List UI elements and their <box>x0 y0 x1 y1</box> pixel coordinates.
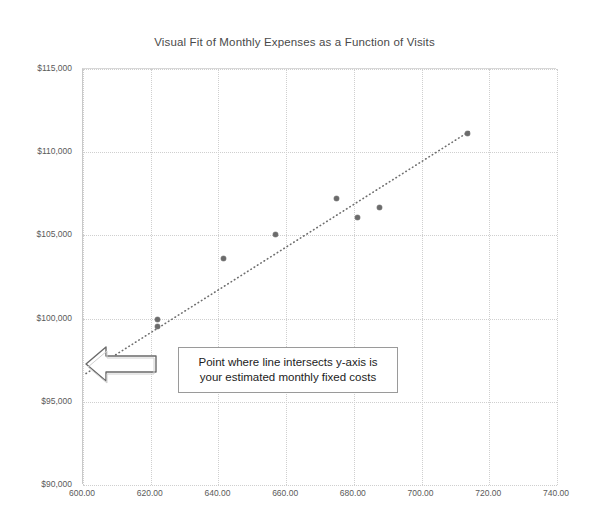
data-point <box>155 317 160 322</box>
gridline-vertical <box>557 69 558 485</box>
data-point <box>155 324 160 329</box>
data-point <box>273 232 278 237</box>
y-tick-label: $110,000 <box>0 146 72 156</box>
gridline-horizontal <box>83 485 557 486</box>
x-axis-tick-labels: 600.00620.00640.00660.00680.00700.00720.… <box>0 488 589 512</box>
x-tick-label: 700.00 <box>408 488 434 498</box>
data-point <box>465 131 470 136</box>
y-tick-label: $100,000 <box>0 313 72 323</box>
x-tick-label: 740.00 <box>543 488 569 498</box>
callout-line-1: Point where line intersects y-axis is <box>199 356 378 368</box>
y-tick-label: $105,000 <box>0 229 72 239</box>
x-tick-label: 720.00 <box>475 488 501 498</box>
x-tick-label: 660.00 <box>272 488 298 498</box>
plot-area <box>82 68 556 484</box>
chart-title: Visual Fit of Monthly Expenses as a Func… <box>0 36 589 48</box>
y-tick-label: $115,000 <box>0 63 72 73</box>
x-tick-label: 680.00 <box>340 488 366 498</box>
fixed-costs-callout: Point where line intersects y-axis is yo… <box>178 347 398 393</box>
x-tick-label: 600.00 <box>69 488 95 498</box>
data-points <box>83 69 556 484</box>
data-point <box>355 215 360 220</box>
data-point <box>221 256 226 261</box>
y-tick-label: $95,000 <box>0 396 72 406</box>
x-tick-label: 620.00 <box>137 488 163 498</box>
chart-container: Visual Fit of Monthly Expenses as a Func… <box>0 0 589 522</box>
data-point <box>334 196 339 201</box>
callout-arrow <box>84 343 158 385</box>
callout-line-2: your estimated monthly fixed costs <box>200 371 376 383</box>
data-point <box>377 205 382 210</box>
callout-text: Point where line intersects y-axis is yo… <box>199 355 378 384</box>
x-tick-label: 640.00 <box>204 488 230 498</box>
